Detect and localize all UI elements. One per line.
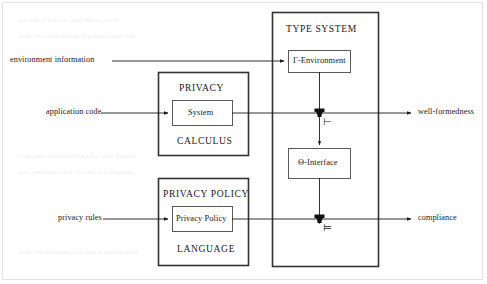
privacy-policy-language-title-top: PRIVACY POLICY	[163, 188, 249, 199]
figure-canvas: the and of a in for with that to be on o…	[0, 0, 487, 284]
judgement-arrow-compliance	[316, 218, 323, 224]
output-label-well-formedness: well-formedness	[418, 107, 474, 116]
privacy-calculus-title-top: PRIVACY	[179, 82, 224, 93]
type-system-title: TYPE SYSTEM	[286, 23, 357, 34]
input-label-environment-information: environment information	[10, 55, 94, 64]
diagram-svg	[0, 0, 487, 284]
output-label-compliance: compliance	[418, 213, 457, 222]
theta-interface-label: Θ-Interface	[298, 158, 338, 167]
privacy-calculus-title-bottom: CALCULUS	[177, 135, 232, 146]
privacy-policy-language-title-bottom: LANGUAGE	[177, 243, 235, 254]
input-label-application-code: application code	[46, 107, 101, 116]
turnstile-symbol: ⊢	[323, 116, 332, 127]
input-label-privacy-rules: privacy rules	[58, 213, 102, 222]
privacy-policy-label: Privacy Policy	[176, 214, 226, 223]
system-label: System	[188, 108, 213, 117]
gamma-environment-label: Γ-Environment	[293, 56, 346, 65]
judgement-arrow-well-formedness	[316, 112, 323, 118]
double-turnstile-symbol: ⊨	[323, 222, 332, 233]
